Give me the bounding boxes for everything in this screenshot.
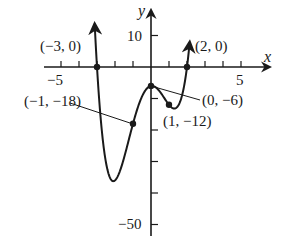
point-label-neg1-neg18: (−1, −18) [24,93,81,110]
point-label-2-0: (2, 0) [195,38,228,55]
plot-area: x y 10 −50 −5 5 (−3, 0) (2, 0) (−1, −18)… [0,0,283,252]
x-tick-label-5: 5 [236,72,244,88]
y-tick-label-neg50: −50 [118,216,141,232]
point-label-0-neg6: (0, −6) [202,92,243,109]
graph-figure: x y 10 −50 −5 5 (−3, 0) (2, 0) (−1, −18)… [0,0,283,252]
y-tick-label-10: 10 [127,28,142,44]
x-tick-label-neg5: −5 [47,72,63,88]
y-ticks [151,36,158,225]
x-axis-label: x [263,48,271,65]
y-axis-label: y [136,2,146,20]
point-label-1-neg12: (1, −12) [163,113,211,130]
function-curve [95,24,190,181]
point-label-neg3-0: (−3, 0) [40,38,81,55]
